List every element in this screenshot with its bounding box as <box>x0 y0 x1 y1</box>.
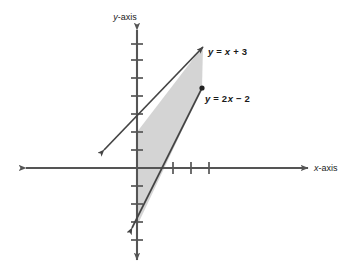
label-line-1-const: 3 <box>242 46 247 57</box>
label-line-1-eq: = <box>216 46 222 57</box>
coordinate-plane-svg: y=x+3 y=2x−2 y-axis x-axis <box>0 0 344 279</box>
y-axis-label-suffix: -axis <box>118 12 138 22</box>
label-line-1-x: x <box>224 46 231 57</box>
line-2-endpoint-dot <box>199 85 204 90</box>
label-line-1: y=x+3 <box>207 46 247 57</box>
label-line-2-coef: 2 <box>222 93 227 104</box>
label-line-1-y: y <box>207 46 214 57</box>
graph-figure: y=x+3 y=2x−2 y-axis x-axis <box>0 0 344 279</box>
label-line-2-x: x <box>227 93 234 104</box>
label-line-2-y: y <box>204 93 211 104</box>
y-axis-label: y-axis <box>112 12 137 22</box>
x-axis-label: x-axis <box>313 163 338 173</box>
label-line-1-op: + <box>233 46 239 57</box>
x-axis-label-suffix: -axis <box>319 163 339 173</box>
label-line-2-eq: = <box>213 93 219 104</box>
label-line-2-op: − <box>236 93 242 104</box>
label-line-2-const: 2 <box>245 93 250 104</box>
